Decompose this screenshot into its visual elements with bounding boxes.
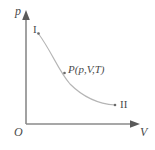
state-one-label: I <box>33 24 37 35</box>
up-arrow-icon <box>22 10 30 20</box>
point-p-label: P(p,V,T) <box>68 64 104 75</box>
origin-label: O <box>14 126 23 138</box>
right-arrow-icon <box>130 120 140 128</box>
pressure-axis-label: p <box>15 5 21 17</box>
point-marker-p <box>63 72 66 75</box>
point-marker-state-one <box>37 32 40 35</box>
diagram-canvas <box>0 0 155 150</box>
point-marker-state-two <box>114 104 117 107</box>
volume-axis-label: V <box>140 126 147 138</box>
pv-diagram-figure: p V O I P(p,V,T) II <box>0 0 155 150</box>
state-two-label: II <box>120 99 127 110</box>
